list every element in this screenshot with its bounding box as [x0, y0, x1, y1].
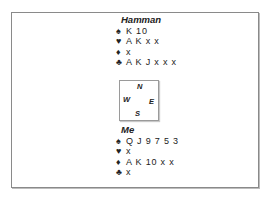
- south-clubs-cards: x: [126, 167, 131, 177]
- north-diamonds-row: ♦x: [116, 47, 177, 58]
- north-spades-row: ♠K 10: [116, 26, 177, 37]
- north-clubs-row: ♣A K J x x x: [116, 57, 177, 68]
- north-hearts-cards: A K x x: [126, 36, 160, 46]
- north-spades-cards: K 10: [126, 26, 148, 36]
- diamond-icon: ♦: [116, 47, 126, 58]
- heart-icon: ♥: [116, 36, 126, 47]
- spade-icon: ♠: [116, 26, 126, 37]
- compass-west: W: [123, 95, 130, 104]
- south-spades-row: ♠Q J 9 7 5 3: [116, 136, 179, 147]
- compass-south: S: [135, 109, 140, 118]
- diamond-icon: ♦: [116, 157, 126, 168]
- south-diamonds-cards: A K 10 x x: [126, 157, 175, 167]
- south-diamonds-row: ♦A K 10 x x: [116, 157, 179, 168]
- south-hearts-cards: x: [126, 146, 131, 156]
- north-hearts-row: ♥A K x x: [116, 36, 177, 47]
- south-spades-cards: Q J 9 7 5 3: [126, 136, 179, 146]
- compass-north: N: [137, 82, 142, 91]
- compass-east: E: [149, 97, 154, 106]
- club-icon: ♣: [116, 167, 126, 178]
- south-player-name: Me: [121, 125, 179, 136]
- south-hand: Me ♠Q J 9 7 5 3 ♥x ♦A K 10 x x ♣x: [116, 125, 179, 178]
- compass-box: N W E S: [119, 80, 159, 121]
- south-clubs-row: ♣x: [116, 167, 179, 178]
- north-hand: Hamman ♠K 10 ♥A K x x ♦x ♣A K J x x x: [116, 15, 177, 68]
- club-icon: ♣: [116, 57, 126, 68]
- north-diamonds-cards: x: [126, 47, 131, 57]
- spade-icon: ♠: [116, 136, 126, 147]
- heart-icon: ♥: [116, 146, 126, 157]
- south-hearts-row: ♥x: [116, 146, 179, 157]
- north-clubs-cards: A K J x x x: [126, 57, 177, 67]
- north-player-name: Hamman: [121, 15, 177, 26]
